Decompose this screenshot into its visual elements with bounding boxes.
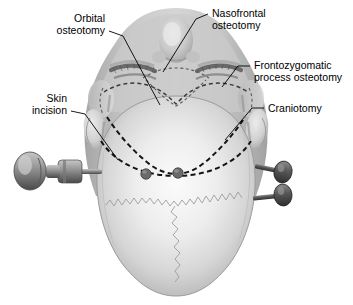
label-nasofrontal-osteotomy-line2: osteotomy [212, 19, 261, 31]
pin-right-upper-head [272, 159, 294, 184]
burr-hole-right-highlight [174, 169, 179, 173]
pin-right-upper-highlight [278, 164, 284, 172]
label-frontozygomatic-process-osteotomy-line2: process osteotomy [254, 71, 343, 83]
label-orbital-osteotomy-line1: Orbital [74, 12, 105, 24]
cranial-vault-scalp [97, 96, 255, 296]
pin-left-collar [58, 160, 82, 183]
nose-tip-highlight [163, 22, 181, 46]
pin-right-lower-head [273, 183, 293, 207]
craniofacial-osteotomy-figure: Orbital osteotomy Nasofrontal osteotomy … [0, 0, 353, 305]
label-craniotomy: Craniotomy [268, 102, 322, 114]
label-skin-incision-line1: Skin [47, 92, 68, 104]
pin-left-collar-ridge [63, 160, 66, 183]
nasal-ala-left [152, 51, 166, 63]
label-skin-incision-line2: incision [32, 104, 67, 116]
pin-left-neck [46, 165, 60, 178]
burr-hole-right [173, 168, 183, 178]
label-nasofrontal-osteotomy-line1: Nasofrontal [212, 7, 266, 19]
nasal-ala-right [186, 51, 200, 63]
pin-right-lower-highlight [278, 187, 284, 195]
burr-hole-left-highlight [142, 170, 147, 174]
label-frontozygomatic-process-osteotomy-line1: Frontozygomatic [254, 59, 332, 71]
pin-left-knob-highlight [18, 155, 32, 175]
label-orbital-osteotomy-line2: osteotomy [57, 24, 106, 36]
anatomical-illustration: Orbital osteotomy Nasofrontal osteotomy … [0, 0, 353, 305]
burr-hole-left [141, 169, 151, 179]
